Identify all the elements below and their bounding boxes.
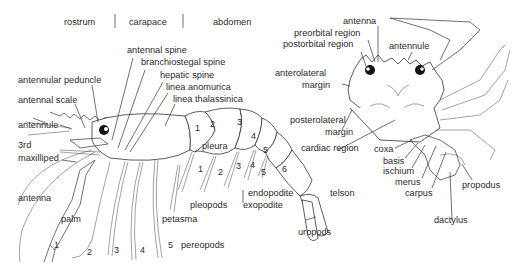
label-telson: telson: [330, 188, 355, 198]
pereopod-number: 2: [87, 247, 92, 257]
label-antennular-peduncle: antennular peduncle: [18, 75, 101, 85]
label-petasma: petasma: [162, 214, 197, 224]
crab-label-antenna: antenna: [343, 16, 376, 26]
pereopod-number: 3: [114, 245, 119, 255]
pereopod-number: 4: [140, 245, 145, 255]
label-palm: palm: [61, 214, 81, 224]
abdominal-segment-number: 4: [251, 131, 256, 141]
label-antennal-scale: antennal scale: [18, 95, 77, 105]
abdominal-segment-number: 5: [263, 145, 268, 155]
label-uropods: uropods: [298, 227, 331, 237]
label-endopodite: endopodite: [248, 188, 293, 198]
pereopod-number: 1: [54, 240, 59, 250]
crab-label-anterolateral-line1: anterolateral: [275, 68, 326, 78]
label-pereopods: pereopods: [181, 240, 224, 250]
crab-label-merus: merus: [395, 177, 421, 187]
label-pleopods: pleopods: [190, 200, 227, 210]
label-antennule: antennule: [18, 120, 58, 130]
crab-label-coxa: coxa: [374, 144, 393, 154]
crab-label-dactylus: dactylus: [434, 215, 468, 225]
label-exopodite: exopodite: [243, 200, 283, 210]
label-3rd-maxilliped-line2: maxilliped: [18, 153, 59, 163]
crab-label-propodus: propodus: [462, 180, 500, 190]
pleopod-number: 2: [218, 167, 223, 177]
crustacean-anatomy-diagram: rostrum carapace abdomen antennal spine …: [0, 0, 520, 278]
crab-label-posterolateral-line2: margin: [325, 127, 353, 137]
region-label-abdomen: abdomen: [213, 17, 251, 27]
crab-label-preorbital-region: preorbital region: [294, 28, 360, 38]
crab-label-posterolateral-line1: posterolateral: [290, 115, 346, 125]
label-antenna: antenna: [18, 193, 51, 203]
pleopod-number: 4: [250, 160, 255, 170]
label-3rd-maxilliped-line1: 3rd: [18, 140, 31, 150]
label-pleura: pleura: [202, 141, 228, 151]
crab-label-basis: basis: [383, 156, 404, 166]
lobster-drawing: [18, 108, 328, 262]
crab-label-ischium: ischium: [383, 166, 414, 176]
region-label-rostrum: rostrum: [64, 17, 95, 27]
pleopod-number: 5: [261, 167, 266, 177]
label-hepatic-spine: hepatic spine: [160, 70, 214, 80]
pleopod-number: 1: [198, 164, 203, 174]
abdominal-segment-number: 2: [210, 119, 215, 129]
label-branchiostegal-spine: branchiostegal spine: [141, 57, 225, 67]
label-linea-anomurica: linea anomurica: [166, 82, 231, 92]
crab-label-antennule: antennule: [389, 41, 429, 51]
pleopod-number: 3: [236, 161, 241, 171]
crab-label-carpus: carpus: [405, 188, 433, 198]
label-antennal-spine: antennal spine: [127, 45, 187, 55]
crab-label-anterolateral-line2: margin: [302, 80, 330, 90]
abdominal-segment-number: 3: [237, 117, 242, 127]
crab-label-cardiac-region: cardiac region: [301, 143, 359, 153]
abdominal-segment-number: 1: [195, 123, 200, 133]
anatomy-drawings: [0, 0, 520, 278]
crab-label-postorbital-region: postorbital region: [283, 39, 353, 49]
label-linea-thalassinica: linea thalassinica: [173, 94, 243, 104]
pereopod-number: 5: [168, 240, 173, 250]
region-label-carapace: carapace: [129, 17, 167, 27]
abdominal-segment-number: 6: [282, 164, 287, 174]
